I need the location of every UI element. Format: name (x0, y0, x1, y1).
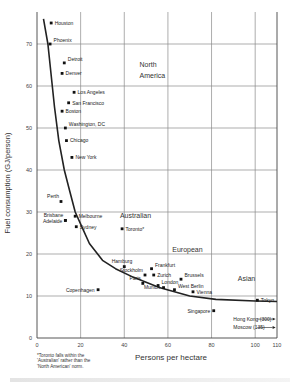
data-point-label: Houston (55, 20, 74, 26)
data-point-label: Frankfurt (155, 262, 176, 268)
x-tick-label: 60 (165, 342, 171, 348)
y-tick-label: 20 (26, 251, 32, 257)
data-point-label: Washington, DC (69, 121, 106, 127)
y-tick-label: 70 (26, 41, 32, 47)
offscale-annotations: Hong Kong (300)Moscow (135) (233, 316, 275, 330)
data-point-marker (162, 286, 165, 289)
data-point-label: Chicago (70, 137, 89, 143)
data-point-label: Zurich (157, 272, 171, 278)
data-point-label: Detroit (68, 56, 83, 62)
region-label: Australian (120, 212, 151, 219)
data-point-marker (67, 101, 70, 104)
data-point-marker (65, 139, 68, 142)
x-axis-title: Persons per hectare (135, 353, 207, 362)
data-point-label: Melbourne (79, 213, 103, 219)
y-tick-label: 40 (26, 167, 32, 173)
data-point-label: Phoenix (54, 37, 73, 43)
data-point-label: Adelaide (43, 218, 63, 224)
data-point-marker (256, 299, 259, 302)
data-point-marker (97, 288, 100, 291)
y-axis-title: Fuel consumption (GJ/person) (3, 113, 13, 253)
region-labels: NorthAmericaAustralianEuropeanAsian (120, 61, 255, 282)
data-point-label: New York (75, 154, 97, 160)
y-tick-label: 10 (26, 293, 32, 299)
data-point-label: Los Angeles (78, 89, 106, 95)
data-point-label: San Francisco (72, 100, 104, 106)
chart-canvas: 020406080100110010203040506070 NorthAmer… (0, 0, 299, 382)
data-point-label: Brussels (185, 272, 205, 278)
data-point-marker (61, 110, 64, 113)
footnote-line: 'North American' norm. (37, 364, 117, 369)
data-point-marker (63, 62, 66, 65)
data-point-label: London (162, 279, 179, 285)
y-tick-label: 0 (29, 335, 32, 341)
region-label: Asian (238, 275, 256, 282)
data-point-label: Vienna (197, 289, 213, 295)
data-point-label: Denver (66, 70, 82, 76)
data-point-marker (64, 219, 67, 222)
data-point-label: Perth (47, 193, 59, 199)
arrow-right-icon (273, 318, 276, 321)
x-tick-label: 80 (208, 342, 214, 348)
data-point-marker (50, 22, 53, 25)
data-point-marker (49, 43, 52, 46)
data-point-marker (71, 156, 74, 159)
data-point-marker (121, 227, 124, 230)
y-tick-label: 60 (26, 83, 32, 89)
data-point-label: Sydney (80, 224, 97, 230)
data-point-label: Stockholm (120, 267, 143, 273)
region-label: European (172, 246, 202, 254)
arrow-right-icon (273, 326, 276, 329)
figure-caption-cropped (10, 378, 290, 382)
data-point-label: Munich (144, 284, 160, 290)
data-point-marker (144, 274, 147, 277)
data-point-marker (180, 278, 183, 281)
data-point-label: Singapore (187, 308, 210, 314)
x-tick-label: 20 (78, 342, 84, 348)
data-point-marker (173, 288, 176, 291)
x-tick-label: 100 (251, 342, 260, 348)
x-tick-label: 40 (121, 342, 127, 348)
data-point-marker (73, 91, 76, 94)
data-point-label: Boston (66, 108, 82, 114)
x-tick-label: 0 (35, 342, 38, 348)
region-label: America (140, 72, 166, 79)
data-point-marker (60, 200, 63, 203)
data-point-marker (74, 215, 77, 218)
data-point-label: Tokyo (261, 297, 274, 303)
region-label: North (140, 61, 157, 68)
data-point-marker (61, 72, 64, 75)
data-point-marker (152, 274, 155, 277)
data-point-marker (212, 309, 215, 312)
data-point-marker (64, 127, 67, 130)
data-point-marker (75, 225, 78, 228)
data-point-marker (150, 267, 153, 270)
footnote: *Toronto falls within the 'Australian' r… (37, 353, 117, 369)
y-tick-label: 30 (26, 209, 32, 215)
y-tick-label: 50 (26, 125, 32, 131)
data-point-label: Hamburg (112, 258, 133, 264)
data-points: HoustonPhoenixDetroitDenverLos AngelesSa… (43, 20, 274, 314)
data-point-label: Paris (129, 275, 141, 281)
data-point-label: Toronto* (126, 226, 145, 232)
data-point-label: Copenhagen (66, 287, 95, 293)
data-point-marker (192, 290, 195, 293)
x-tick-label: 110 (273, 342, 282, 348)
